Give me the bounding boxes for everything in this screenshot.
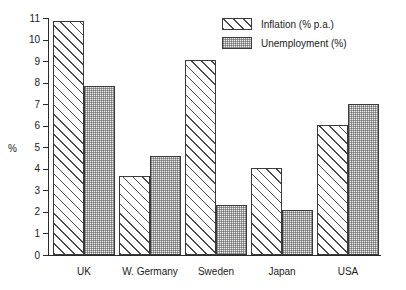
x-label-japan: Japan: [268, 266, 295, 277]
x-label-sweden: Sweden: [198, 266, 234, 277]
y-tick-label-11: 11: [30, 14, 40, 24]
y-tick-label-3: 3: [34, 186, 40, 196]
y-tick-5: 5: [43, 147, 48, 148]
y-tick-label-4: 4: [34, 164, 40, 174]
y-tick-2: 2: [43, 212, 48, 213]
bar-chart: 01234567891011 UKW. GermanySwedenJapanUS…: [0, 0, 406, 290]
y-axis-line: [48, 18, 49, 255]
bar-sweden-inflation: [185, 60, 216, 255]
hatch-swatch: [222, 18, 252, 30]
y-tick-label-9: 9: [34, 57, 40, 67]
legend-label-unemployment: Unemployment (%): [261, 38, 347, 49]
y-tick-8: 8: [43, 83, 48, 84]
y-tick-6: 6: [43, 126, 48, 127]
y-tick-1: 1: [43, 233, 48, 234]
y-tick-label-0: 0: [34, 251, 40, 261]
x-label-usa: USA: [338, 266, 359, 277]
bar-usa-unemployment: [348, 104, 379, 255]
y-tick-3: 3: [43, 190, 48, 191]
bar-usa-inflation: [317, 125, 348, 255]
x-axis-line: [48, 255, 381, 256]
y-tick-0: 0: [43, 255, 48, 256]
bar-japan-unemployment: [282, 210, 313, 255]
y-tick-4: 4: [43, 169, 48, 170]
y-tick-label-6: 6: [34, 121, 40, 131]
y-tick-11: 11: [43, 18, 48, 19]
y-tick-9: 9: [43, 61, 48, 62]
legend-label-inflation: Inflation (% p.a.): [261, 19, 334, 30]
x-label-w-germany: W. Germany: [122, 266, 178, 277]
chart-legend: Inflation (% p.a.) Unemployment (%): [222, 16, 347, 54]
y-axis-title: %: [8, 144, 17, 154]
bar-sweden-unemployment: [216, 205, 247, 255]
y-tick-label-5: 5: [34, 143, 40, 153]
x-label-uk: UK: [77, 266, 91, 277]
bar-uk-inflation: [53, 21, 84, 255]
y-tick-label-7: 7: [34, 100, 40, 110]
y-tick-10: 10: [43, 40, 48, 41]
bar-w-germany-unemployment: [150, 156, 181, 255]
legend-item-inflation: Inflation (% p.a.): [222, 16, 347, 32]
y-tick-label-1: 1: [34, 229, 40, 239]
y-tick-label-8: 8: [34, 78, 40, 88]
bar-w-germany-inflation: [119, 176, 150, 255]
legend-item-unemployment: Unemployment (%): [222, 35, 347, 51]
y-tick-label-10: 10: [29, 35, 40, 45]
y-tick-label-2: 2: [34, 207, 40, 217]
bar-uk-unemployment: [84, 86, 115, 255]
y-tick-7: 7: [43, 104, 48, 105]
bar-japan-inflation: [251, 168, 282, 255]
stipple-swatch: [222, 37, 252, 49]
